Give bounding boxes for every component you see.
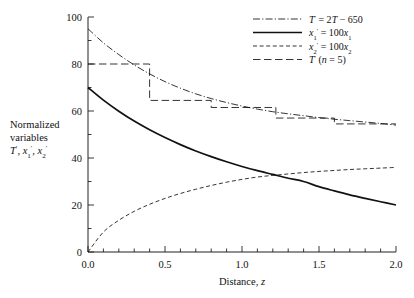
series-line-t-n5 [88,64,396,124]
x-tick-label: 1.0 [235,259,248,270]
x-tick-label: 0.5 [158,259,171,270]
legend-label-t-n5: T′ (n = 5) [309,54,346,67]
chart-svg: 0204060801000.00.51.01.52.0Distance, zNo… [0,0,414,298]
y-axis-title-line1: Normalized [10,119,60,130]
legend-label-x2: x2′ = 100x2 [308,40,351,54]
x-tick-label: 0.0 [81,259,94,270]
y-tick-label: 60 [72,106,83,117]
series-line-t-prime [88,29,396,125]
y-tick-label: 80 [72,59,83,70]
y-tick-label: 100 [66,12,82,23]
series-line-x1 [88,88,396,206]
x-tick-label: 1.5 [312,259,325,270]
y-tick-label: 20 [72,200,83,211]
y-axis-title-line2: variables [10,132,48,143]
series-line-x2 [88,167,396,252]
legend-label-t-prime: T′ = 2T − 650 [309,13,363,25]
x-axis-title: Distance, z [219,276,265,287]
y-tick-label: 40 [72,153,83,164]
chart-figure: 0204060801000.00.51.01.52.0Distance, zNo… [0,0,414,298]
y-axis-title-line3: T′, x1′, x2′ [10,144,48,160]
y-tick-label: 0 [77,247,82,258]
legend-label-x1: x1′ = 100x1 [308,27,351,41]
x-tick-label: 2.0 [389,259,402,270]
